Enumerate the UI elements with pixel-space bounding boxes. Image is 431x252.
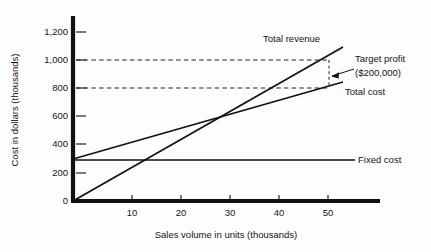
chart-canvas: 1,200 1,000 800 600 400 200 0 10 20 30 4… [0,0,431,252]
y-tick-label-200: 200 [52,167,68,178]
y-tick-label-1200: 1,200 [44,26,68,37]
x-tick-label-30: 30 [225,207,236,218]
y-tick-label-400: 400 [52,138,68,149]
series-label-target-profit-line2: ($200,000) [355,67,401,78]
x-tick-label-20: 20 [176,207,187,218]
x-axis-title: Sales volume in units (thousands) [155,229,298,240]
y-tick-label-600: 600 [52,110,68,121]
chart-background [0,0,431,252]
y-tick-label-800: 800 [52,82,68,93]
series-label-total-cost: Total cost [345,86,385,97]
x-tick-label-40: 40 [274,207,285,218]
series-label-fixed-cost: Fixed cost [358,154,402,165]
x-tick-label-10: 10 [127,207,138,218]
cvp-chart: 1,200 1,000 800 600 400 200 0 10 20 30 4… [0,0,431,252]
y-tick-label-0: 0 [63,195,68,206]
series-label-target-profit-line1: Target profit [355,53,406,64]
x-tick-label-50: 50 [323,207,334,218]
y-tick-label-1000: 1,000 [44,54,68,65]
y-axis-title: Cost in dollars (thousands) [9,54,20,167]
series-label-total-revenue: Total revenue [263,33,320,44]
